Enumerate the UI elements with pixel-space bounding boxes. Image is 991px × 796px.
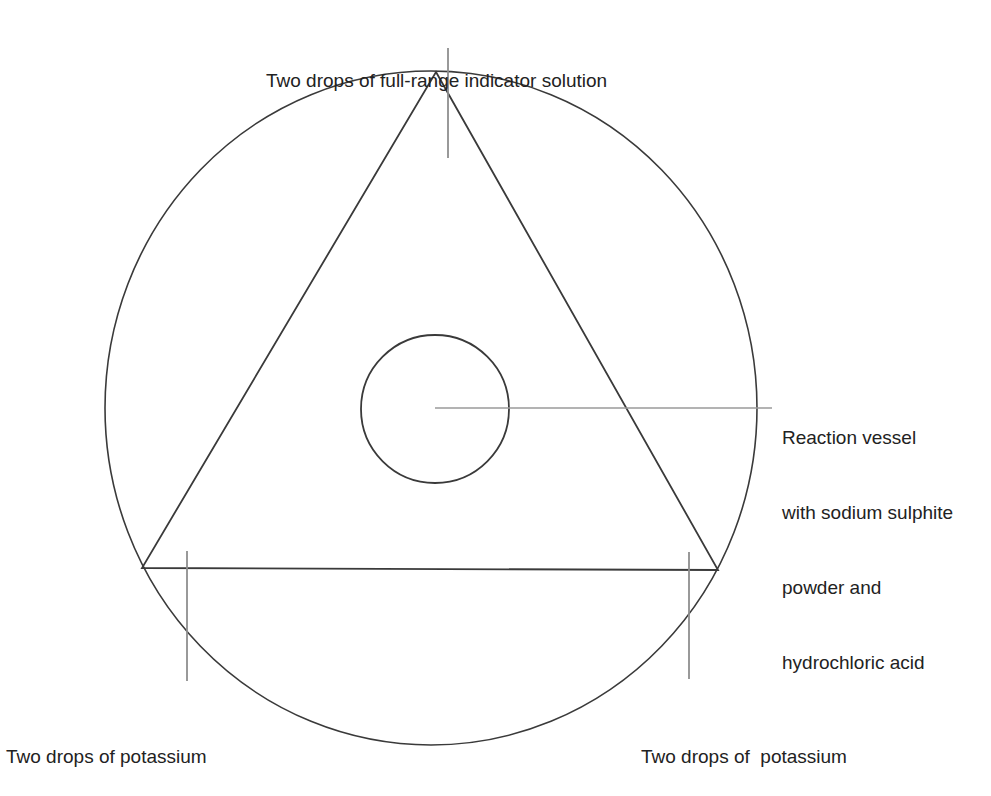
inner-circle-reaction-vessel: [361, 335, 509, 483]
reaction-vessel-label-line-3: powder and: [782, 575, 953, 600]
potassium-manganate-label-line-1: Two drops of potassium: [641, 744, 859, 769]
potassium-iodate-label: Two drops of potassium iodate and two dr…: [6, 694, 229, 796]
indicator-solution-label-line-1: Two drops of full-range indicator soluti…: [266, 68, 607, 93]
reagent-triangle: [142, 72, 718, 570]
reaction-vessel-label: Reaction vessel with sodium sulphite pow…: [782, 375, 953, 700]
reaction-vessel-label-line-1: Reaction vessel: [782, 425, 953, 450]
potassium-iodate-label-line-1: Two drops of potassium: [6, 744, 229, 769]
reaction-vessel-label-line-2: with sodium sulphite: [782, 500, 953, 525]
indicator-solution-label: Two drops of full-range indicator soluti…: [266, 18, 607, 118]
potassium-manganate-label: Two drops of potassium manganate(VII) an…: [641, 694, 859, 796]
reaction-vessel-label-line-4: hydrochloric acid: [782, 650, 953, 675]
